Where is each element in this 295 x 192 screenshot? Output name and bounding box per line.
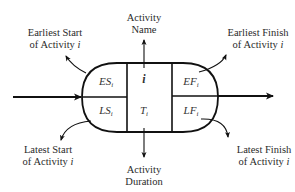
label-line: Latest Start	[8, 144, 88, 156]
label-line: Earliest Finish	[218, 27, 295, 39]
label-line: Duration	[114, 176, 174, 188]
label-text: of Activity	[239, 156, 287, 167]
label-variable: i	[77, 39, 80, 50]
cell-subscript: i	[111, 110, 113, 118]
latest-finish-cell: LFi	[176, 104, 206, 118]
label-line: Activity	[114, 164, 174, 176]
activity-name-label: Activity Name	[114, 12, 174, 36]
cell-symbol: EF	[183, 75, 196, 87]
cell-subscript: i	[111, 81, 113, 89]
label-line: of Activity i	[8, 156, 88, 168]
latest-start-cell: LSi	[91, 104, 121, 118]
activity-symbol: i	[142, 72, 145, 86]
label-line: Activity	[114, 12, 174, 24]
label-line: Earliest Start	[10, 27, 100, 39]
cell-subscript: i	[196, 110, 198, 118]
label-line: Latest Finish	[224, 144, 295, 156]
duration-cell: Ti	[134, 104, 154, 118]
label-line: of Activity i	[10, 39, 100, 51]
latest-finish-pointer	[201, 119, 228, 137]
latest-start-label: Latest Start of Activity i	[8, 144, 88, 168]
latest-finish-label: Latest Finish of Activity i	[224, 144, 295, 168]
earliest-finish-cell: EFi	[176, 75, 206, 89]
earliest-start-pointer	[66, 56, 86, 73]
cell-symbol: LF	[184, 104, 197, 116]
earliest-finish-label: Earliest Finish of Activity i	[218, 27, 295, 51]
earliest-finish-pointer	[199, 55, 226, 72]
activity-name-cell: i	[134, 72, 154, 87]
label-line: of Activity i	[224, 156, 295, 168]
cell-symbol: ES	[99, 75, 111, 87]
latest-start-pointer	[61, 121, 91, 140]
label-text: of Activity	[233, 39, 281, 50]
cell-subscript: i	[146, 110, 148, 118]
label-variable: i	[70, 156, 73, 167]
label-text: of Activity	[30, 39, 78, 50]
cell-subscript: i	[197, 81, 199, 89]
label-variable: i	[280, 39, 283, 50]
label-line: Name	[114, 24, 174, 36]
label-text: of Activity	[23, 156, 71, 167]
cell-symbol: LS	[99, 104, 111, 116]
label-variable: i	[286, 156, 289, 167]
earliest-start-label: Earliest Start of Activity i	[10, 27, 100, 51]
earliest-start-cell: ESi	[91, 75, 121, 89]
label-line: of Activity i	[218, 39, 295, 51]
activity-duration-label: Activity Duration	[114, 164, 174, 188]
